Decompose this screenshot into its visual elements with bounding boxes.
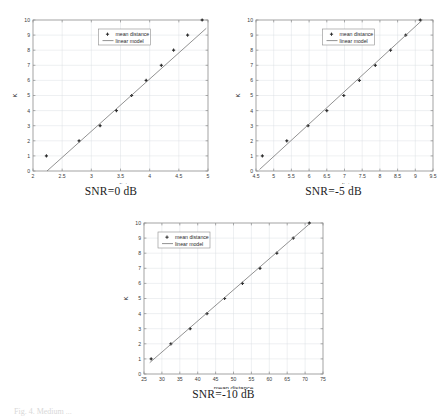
svg-text:50: 50 bbox=[231, 376, 237, 382]
chart-panel-snr-minus5: 4.555.566.577.588.599.5012345678910mean … bbox=[222, 2, 445, 205]
svg-text:7: 7 bbox=[138, 265, 141, 271]
svg-text:linear model: linear model bbox=[175, 241, 203, 247]
svg-text:1: 1 bbox=[27, 153, 30, 159]
svg-text:mean distances: mean distances bbox=[323, 181, 366, 185]
svg-text:40: 40 bbox=[195, 376, 201, 382]
svg-text:3: 3 bbox=[90, 173, 93, 179]
svg-text:linear model: linear model bbox=[116, 38, 144, 44]
svg-text:4.5: 4.5 bbox=[175, 173, 182, 179]
svg-text:75: 75 bbox=[320, 376, 326, 382]
panel-caption-snr-minus5: SNR=-5 dB bbox=[222, 185, 445, 197]
svg-text:3: 3 bbox=[250, 123, 253, 129]
svg-text:mean distance: mean distance bbox=[116, 31, 150, 37]
svg-text:K: K bbox=[234, 93, 241, 97]
svg-text:45: 45 bbox=[213, 376, 219, 382]
svg-text:7.5: 7.5 bbox=[359, 173, 366, 179]
svg-text:5.5: 5.5 bbox=[288, 173, 295, 179]
svg-text:5: 5 bbox=[272, 173, 275, 179]
svg-text:60: 60 bbox=[266, 376, 272, 382]
chart-svg-snr-0: 22.533.544.55012345678910mean distanceKm… bbox=[0, 2, 222, 184]
svg-text:3.5: 3.5 bbox=[117, 173, 124, 179]
svg-text:10: 10 bbox=[247, 17, 253, 23]
svg-text:K: K bbox=[122, 296, 129, 300]
svg-text:2: 2 bbox=[27, 138, 30, 144]
svg-text:5: 5 bbox=[207, 173, 210, 179]
svg-text:4: 4 bbox=[138, 311, 141, 317]
svg-text:9: 9 bbox=[138, 235, 141, 241]
svg-text:2: 2 bbox=[138, 341, 141, 347]
svg-text:mean distance: mean distance bbox=[340, 31, 374, 37]
svg-text:3: 3 bbox=[138, 326, 141, 332]
svg-text:7: 7 bbox=[27, 62, 30, 68]
svg-text:8.5: 8.5 bbox=[394, 173, 401, 179]
svg-text:0: 0 bbox=[138, 371, 141, 377]
panel-caption-snr-minus10: SNR=-10 dB bbox=[111, 388, 336, 400]
svg-text:4: 4 bbox=[148, 173, 151, 179]
plot-area-snr-minus5: 4.555.566.577.588.599.5012345678910mean … bbox=[222, 2, 445, 184]
svg-text:mean distance: mean distance bbox=[175, 234, 209, 240]
svg-text:2: 2 bbox=[250, 138, 253, 144]
svg-text:10: 10 bbox=[135, 220, 141, 226]
svg-text:30: 30 bbox=[159, 376, 165, 382]
svg-text:10: 10 bbox=[24, 17, 30, 23]
svg-text:4: 4 bbox=[250, 108, 253, 114]
svg-text:K: K bbox=[11, 93, 18, 97]
svg-text:35: 35 bbox=[177, 376, 183, 382]
svg-text:0: 0 bbox=[27, 168, 30, 174]
svg-text:0: 0 bbox=[250, 168, 253, 174]
svg-text:9: 9 bbox=[250, 32, 253, 38]
svg-text:2: 2 bbox=[32, 173, 35, 179]
svg-text:4: 4 bbox=[27, 108, 30, 114]
svg-text:8: 8 bbox=[138, 250, 141, 256]
svg-text:8: 8 bbox=[250, 47, 253, 53]
svg-text:5: 5 bbox=[250, 92, 253, 98]
chart-panel-snr-0: 22.533.544.55012345678910mean distanceKm… bbox=[0, 2, 222, 205]
svg-text:65: 65 bbox=[284, 376, 290, 382]
svg-text:7: 7 bbox=[343, 173, 346, 179]
svg-text:25: 25 bbox=[141, 376, 147, 382]
svg-text:1: 1 bbox=[250, 153, 253, 159]
svg-text:5: 5 bbox=[27, 92, 30, 98]
svg-text:3: 3 bbox=[27, 123, 30, 129]
plot-area-snr-minus10: 2530354045505560657075012345678910mean d… bbox=[111, 207, 336, 389]
svg-text:4.5: 4.5 bbox=[252, 173, 259, 179]
svg-text:6: 6 bbox=[250, 77, 253, 83]
svg-text:55: 55 bbox=[249, 376, 255, 382]
chart-panel-snr-minus10: 2530354045505560657075012345678910mean d… bbox=[111, 207, 336, 412]
plot-area-snr-0: 22.533.544.55012345678910mean distanceKm… bbox=[0, 2, 222, 184]
svg-text:1: 1 bbox=[138, 356, 141, 362]
svg-text:8: 8 bbox=[378, 173, 381, 179]
figure-bottom-caption: Fig. 4. Medium ... bbox=[14, 407, 72, 416]
svg-text:6: 6 bbox=[27, 77, 30, 83]
svg-text:70: 70 bbox=[302, 376, 308, 382]
svg-text:5: 5 bbox=[138, 295, 141, 301]
svg-text:linear model: linear model bbox=[340, 38, 368, 44]
svg-text:7: 7 bbox=[250, 62, 253, 68]
svg-text:8: 8 bbox=[27, 47, 30, 53]
svg-text:6: 6 bbox=[308, 173, 311, 179]
svg-text:2.5: 2.5 bbox=[59, 173, 66, 179]
svg-text:9: 9 bbox=[414, 173, 417, 179]
svg-text:6.5: 6.5 bbox=[323, 173, 330, 179]
svg-text:9.5: 9.5 bbox=[429, 173, 436, 179]
panel-caption-snr-0: SNR=0 dB bbox=[0, 185, 222, 197]
svg-text:mean distance: mean distance bbox=[101, 181, 141, 185]
chart-svg-snr-minus10: 2530354045505560657075012345678910mean d… bbox=[111, 207, 336, 389]
svg-text:6: 6 bbox=[138, 280, 141, 286]
chart-svg-snr-minus5: 4.555.566.577.588.599.5012345678910mean … bbox=[222, 2, 445, 184]
svg-text:9: 9 bbox=[27, 32, 30, 38]
